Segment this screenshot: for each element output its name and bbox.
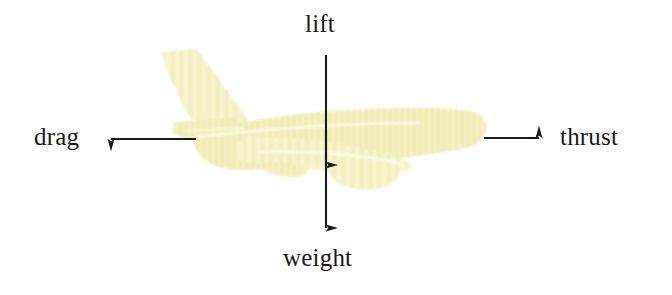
vertical-stabilizer: [161, 49, 250, 124]
force-label-thrust: thrust: [560, 124, 618, 149]
force-label-lift: lift: [305, 11, 335, 36]
force-label-weight: weight: [283, 245, 352, 270]
force-label-drag: drag: [34, 124, 79, 149]
force-diagram-figure: lift weight drag thrust: [0, 0, 672, 295]
airplane-silhouette: [161, 49, 486, 190]
engine-nacelle: [326, 159, 399, 190]
